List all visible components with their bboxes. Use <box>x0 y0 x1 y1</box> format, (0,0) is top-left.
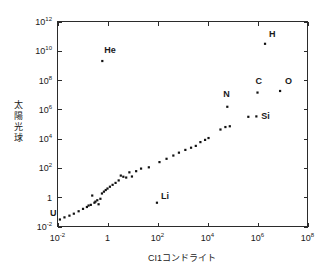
data-point <box>68 215 70 217</box>
data-point-He <box>101 60 103 62</box>
data-point <box>148 166 150 168</box>
data-point <box>135 170 137 172</box>
data-point <box>199 141 201 143</box>
point-label-He: He <box>104 45 116 55</box>
data-point <box>172 154 174 156</box>
data-point <box>114 182 116 184</box>
point-label-O: O <box>285 76 292 86</box>
data-point <box>247 116 249 118</box>
data-point <box>158 161 160 163</box>
data-point <box>207 137 209 139</box>
data-point-Li <box>156 202 158 204</box>
data-point <box>91 194 93 196</box>
data-point <box>73 213 75 215</box>
data-point <box>96 199 98 201</box>
data-point <box>131 175 133 177</box>
data-point <box>106 187 108 189</box>
scatter-chart-figure: 10121010108106104102110-2 10-21102104106… <box>0 0 326 274</box>
data-point-C <box>256 91 258 93</box>
x-tick-label-1: 1 <box>105 233 110 243</box>
data-point-N <box>226 106 228 108</box>
data-point <box>118 179 120 181</box>
data-point <box>195 145 197 147</box>
data-point <box>190 147 192 149</box>
data-point <box>229 125 231 127</box>
data-point <box>112 184 114 186</box>
data-point <box>219 128 221 130</box>
data-point <box>101 192 103 194</box>
y-tick-label-6: 1 <box>47 193 52 203</box>
data-point <box>63 216 65 218</box>
point-label-Si: Si <box>261 111 270 121</box>
point-label-C: C <box>256 76 263 86</box>
data-point-U <box>59 218 61 220</box>
data-point <box>120 174 122 176</box>
data-point <box>90 204 92 206</box>
x-axis-title-text: CI1コンドライト <box>148 253 216 263</box>
data-point <box>224 126 226 128</box>
data-point <box>140 168 142 170</box>
data-point <box>125 176 127 178</box>
data-point <box>78 210 80 212</box>
data-point <box>99 198 101 200</box>
data-point <box>178 152 180 154</box>
point-label-H: H <box>269 29 276 39</box>
y-axis-title-char-0: 太 <box>14 99 23 110</box>
data-point <box>122 176 124 178</box>
data-point <box>165 158 167 160</box>
data-point-H <box>264 43 266 45</box>
data-point <box>109 186 111 188</box>
data-point <box>204 139 206 141</box>
data-point <box>184 149 186 151</box>
point-label-N: N <box>223 89 230 99</box>
y-axis-title-char-1: 陽 <box>14 111 23 121</box>
y-axis-title-char-2: 光 <box>14 121 23 132</box>
data-point-O <box>279 90 281 92</box>
point-label-Li: Li <box>161 191 169 201</box>
data-point <box>128 171 130 173</box>
data-point-Si <box>255 115 257 117</box>
data-point <box>82 208 84 210</box>
y-axis-title-char-3: 球 <box>14 132 23 143</box>
chart-svg: 10121010108106104102110-2 10-21102104106… <box>0 0 326 274</box>
data-point <box>97 203 99 205</box>
point-label-U: U <box>50 208 57 218</box>
data-point <box>87 204 89 206</box>
